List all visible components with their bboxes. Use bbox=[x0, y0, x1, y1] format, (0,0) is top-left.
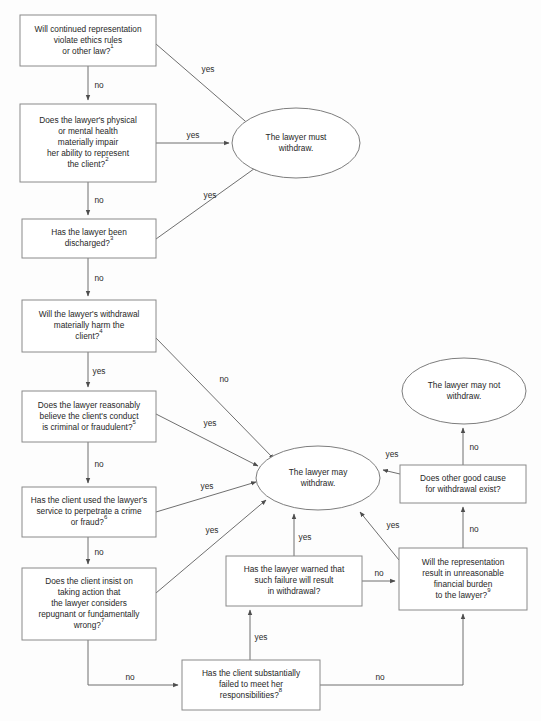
node-e1[interactable]: The lawyer mustwithdraw. bbox=[232, 108, 360, 178]
edge-n3-yes: yes bbox=[156, 166, 258, 239]
edge-n1-yes: yes bbox=[156, 44, 252, 127]
edge-label-n6-no: no bbox=[94, 547, 104, 557]
edge-n4-no: no bbox=[156, 338, 274, 459]
edge-n7-no: no bbox=[88, 640, 178, 685]
edge-label-n5-no: no bbox=[94, 459, 104, 469]
node-n5[interactable]: Does the lawyer reasonablybelieve the cl… bbox=[22, 391, 156, 442]
edge-n8-no: no bbox=[320, 614, 463, 685]
node-n4[interactable]: Will the lawyer's withdrawalmaterially h… bbox=[22, 300, 156, 352]
node-e2[interactable]: The lawyer maywithdraw. bbox=[256, 446, 380, 510]
edge-n3-no: no bbox=[88, 258, 104, 296]
node-n8[interactable]: Has the client substantiallyfailed to me… bbox=[182, 660, 320, 710]
edge-n5-yes: yes bbox=[156, 414, 258, 466]
edge-n10-yes: yes bbox=[360, 512, 399, 560]
edge-label-n4-yes: yes bbox=[93, 366, 106, 376]
edge-label-n5-yes: yes bbox=[204, 418, 217, 428]
edge-n9-yes: yes bbox=[294, 514, 311, 556]
node-n3[interactable]: Has the lawyer beendischarged?3 bbox=[22, 219, 156, 258]
edge-n4-yes: yes bbox=[88, 352, 105, 387]
edge-n11-no: no bbox=[463, 428, 479, 465]
nodes-layer: Will continued representationviolate eth… bbox=[20, 15, 527, 710]
edge-label-n11-yes: yes bbox=[386, 449, 399, 459]
edge-n5-no: no bbox=[88, 442, 104, 483]
edge-n1-no: no bbox=[88, 66, 104, 100]
edge-label-n10-yes: yes bbox=[387, 520, 400, 530]
edge-n11-yes: yes bbox=[383, 449, 400, 474]
edge-label-n11-no: no bbox=[469, 442, 479, 452]
node-n10[interactable]: Will the representationresult in unreaso… bbox=[399, 548, 527, 610]
edge-label-n3-no: no bbox=[94, 273, 104, 283]
edge-n2-no: no bbox=[88, 182, 104, 215]
edge-n6-yes: yes bbox=[156, 481, 256, 512]
edge-label-n4-no: no bbox=[219, 374, 229, 384]
node-n2[interactable]: Does the lawyer's physicalor mental heal… bbox=[20, 104, 156, 182]
withdrawal-decision-flowchart: no yes no yes no yes yes no no yes bbox=[0, 0, 541, 721]
edge-label-n1-yes: yes bbox=[202, 64, 215, 74]
edge-n2-yes: yes bbox=[156, 130, 229, 143]
edge-label-n7-yes: yes bbox=[206, 525, 219, 535]
edge-label-n9-yes: yes bbox=[299, 532, 312, 542]
edge-n6-no: no bbox=[88, 537, 104, 564]
node-n9[interactable]: Has the lawyer warned thatsuch failure w… bbox=[226, 556, 362, 606]
node-n7[interactable]: Does the client insist ontaking action t… bbox=[22, 568, 156, 640]
edge-label-n9-no: no bbox=[374, 568, 384, 578]
edge-label-n6-yes: yes bbox=[201, 481, 214, 491]
edge-label-n3-yes: yes bbox=[204, 190, 217, 200]
edge-n8-yes: yes bbox=[250, 610, 267, 660]
node-label-n5: Does the lawyer reasonablybelieve the cl… bbox=[38, 400, 141, 432]
edge-n9-no: no bbox=[362, 568, 395, 581]
edge-label-n1-no: no bbox=[94, 80, 104, 90]
node-n6[interactable]: Has the client used the lawyer'sservice … bbox=[22, 487, 156, 537]
edge-n10-no: no bbox=[463, 507, 479, 548]
node-n11[interactable]: Does other good causefor withdrawal exis… bbox=[400, 465, 526, 503]
edge-label-n2-yes: yes bbox=[187, 130, 200, 140]
node-n1[interactable]: Will continued representationviolate eth… bbox=[20, 15, 156, 66]
node-label-n11: Does other good causefor withdrawal exis… bbox=[420, 473, 506, 494]
edge-label-n10-no: no bbox=[469, 524, 479, 534]
edge-label-n2-no: no bbox=[94, 195, 104, 205]
node-e3[interactable]: The lawyer may notwithdraw. bbox=[402, 358, 526, 424]
edge-label-n7-no: no bbox=[125, 672, 135, 682]
edge-label-n8-no: no bbox=[375, 672, 385, 682]
edge-label-n8-yes: yes bbox=[255, 632, 268, 642]
